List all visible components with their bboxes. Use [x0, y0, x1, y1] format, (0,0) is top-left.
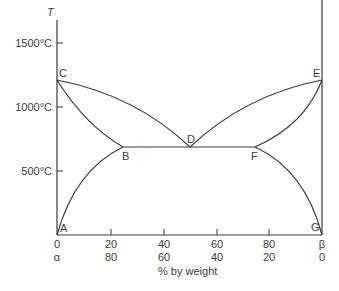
solidus-left — [57, 80, 123, 147]
y-label-500: 500°C — [2, 166, 52, 177]
x-label-top-20: 20 — [99, 239, 123, 250]
x-label-top-80: 80 — [257, 239, 281, 250]
point-label-f: F — [251, 151, 258, 162]
y-label-1500: 1500°C — [2, 38, 52, 49]
x-label-bottom-60: 60 — [152, 252, 176, 263]
point-label-e: E — [313, 68, 320, 79]
y-label-1000: 1000°C — [2, 102, 52, 113]
point-label-d: D — [187, 134, 195, 145]
solidus-right — [255, 80, 322, 147]
y-axis-title: T — [47, 7, 54, 18]
point-label-b: B — [122, 151, 129, 162]
x-label-bottom-80: 80 — [99, 252, 123, 263]
x-label-bottom-20: 20 — [257, 252, 281, 263]
x-label-bottom-40: 40 — [205, 252, 229, 263]
liquidus-left — [57, 80, 190, 147]
x-label-bottom-alpha: α — [45, 252, 69, 263]
x-label-top-beta: β — [310, 239, 334, 250]
x-label-top-0: 0 — [45, 239, 69, 250]
x-label-top-40: 40 — [152, 239, 176, 250]
x-label-top-60: 60 — [205, 239, 229, 250]
point-label-c: C — [59, 68, 67, 79]
x-label-bottom-0: 0 — [310, 252, 334, 263]
point-label-a: A — [60, 223, 67, 234]
point-label-g: G — [311, 222, 320, 233]
x-axis-title: % by weight — [158, 266, 217, 277]
